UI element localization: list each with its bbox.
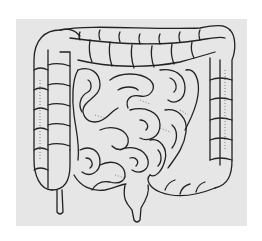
large-intestine: [34, 26, 235, 222]
intestines-illustration: [0, 0, 262, 241]
small-intestine: [73, 69, 199, 191]
